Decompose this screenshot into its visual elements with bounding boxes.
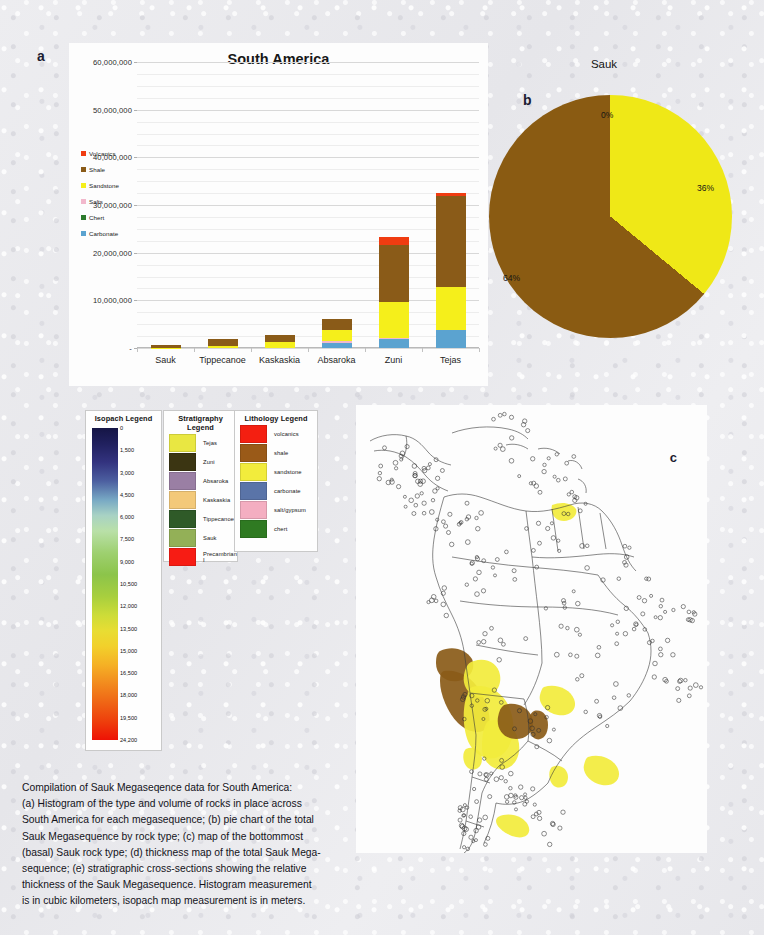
well-location-marker	[493, 574, 496, 577]
map-outline-path	[578, 479, 586, 493]
well-location-marker	[403, 495, 406, 498]
well-location-marker	[563, 477, 567, 481]
well-location-marker	[420, 492, 423, 495]
well-location-marker	[431, 594, 436, 599]
isopach-tick-label: 12,000	[120, 603, 137, 609]
map-panel: c	[356, 405, 707, 853]
map-outline-path	[598, 575, 648, 633]
well-location-marker	[405, 445, 409, 449]
map-outline-path	[496, 801, 524, 804]
well-location-marker	[477, 570, 482, 575]
bar-sauk	[151, 345, 181, 348]
map-outline-path	[526, 511, 532, 557]
well-location-marker	[672, 608, 675, 611]
x-tick-mark	[479, 348, 480, 352]
lithology-legend-title: Lithology Legend	[235, 411, 317, 425]
well-location-marker	[393, 460, 398, 465]
map-outline-path	[506, 444, 528, 449]
legend-item-volcanics: Volcanics	[81, 145, 119, 161]
well-location-marker	[484, 777, 488, 781]
legend-item-shale: Shale	[81, 161, 119, 177]
well-location-marker	[627, 694, 631, 698]
well-location-marker	[632, 627, 636, 631]
well-location-marker	[509, 458, 514, 463]
well-location-marker	[449, 542, 453, 546]
well-location-marker	[585, 544, 589, 548]
well-location-marker	[481, 639, 485, 643]
well-location-marker	[490, 772, 493, 775]
well-location-marker	[580, 674, 584, 678]
well-location-marker	[492, 417, 496, 421]
caption-line: South America for each megasequence; (b)…	[22, 812, 348, 828]
well-location-marker	[475, 839, 478, 842]
well-location-marker	[569, 653, 573, 657]
well-location-marker	[459, 520, 463, 524]
well-location-marker	[491, 566, 494, 569]
stratigraphy-item-precambrian-i: Precambrian I	[169, 548, 237, 566]
isopach-tick-label: 15,000	[120, 648, 137, 654]
well-location-marker	[428, 463, 431, 466]
bar-segment-shale	[208, 339, 238, 346]
map-country-outlines	[370, 427, 651, 853]
well-location-marker	[584, 710, 588, 714]
well-location-marker	[472, 787, 475, 790]
well-location-marker	[488, 795, 492, 799]
well-location-marker	[681, 604, 685, 608]
well-location-marker	[687, 610, 691, 614]
well-location-marker	[475, 800, 479, 804]
caption-line: is in cubic kilometers, isopach map meas…	[22, 893, 348, 909]
well-location-marker	[565, 461, 569, 465]
legend-item-label: Sandstone	[89, 182, 119, 189]
gridline	[137, 110, 479, 111]
isopach-color-ramp	[92, 428, 118, 740]
well-location-marker	[512, 569, 516, 573]
x-tick-mark	[251, 348, 252, 352]
caption-line: sequence; (e) stratigraphic cross-sectio…	[22, 861, 348, 877]
caption-line: (a) Histogram of the type and volume of …	[22, 796, 348, 812]
x-tick-label-absaroka: Absaroka	[317, 355, 355, 365]
well-location-marker	[484, 843, 488, 847]
gridline	[137, 74, 479, 75]
lithology-item-sandstone: sandstone	[240, 463, 317, 481]
isopach-tick-label: 18,000	[120, 692, 137, 698]
well-location-marker	[509, 771, 514, 776]
well-location-marker	[699, 686, 702, 689]
stratigraphy-item-label: Zuni	[203, 459, 215, 465]
pie-chart-title: Sauk	[494, 58, 714, 70]
map-outline-path	[482, 765, 500, 793]
well-location-marker	[551, 536, 555, 540]
well-location-marker	[520, 796, 524, 800]
histogram-panel: South America -10,000,00020,000,00030,00…	[69, 43, 488, 386]
legend-swatch-icon	[81, 215, 86, 220]
well-location-marker	[659, 604, 662, 607]
well-location-marker	[436, 487, 439, 490]
y-tick-label: -	[129, 344, 132, 353]
well-location-marker	[404, 505, 407, 508]
map-outline-path	[538, 609, 542, 663]
caption-line: Sauk Megasequence by rock type; (c) map …	[22, 829, 348, 845]
isopach-tick-label: 0	[120, 425, 123, 431]
well-location-marker	[650, 594, 653, 597]
map-outline-path	[460, 601, 618, 615]
map-shaded-regions	[436, 503, 619, 837]
lithology-legend: Lithology Legend volcanicsshalesandstone…	[234, 410, 318, 552]
well-location-marker	[504, 779, 507, 782]
gridline	[137, 62, 479, 63]
bar-segment-sandstone	[322, 330, 352, 341]
stratigraphy-item-kaskaskia: Kaskaskia	[169, 491, 237, 509]
gridline	[137, 312, 479, 313]
isopach-tick-label: 4,500	[120, 492, 134, 498]
legend-swatch-icon	[81, 199, 86, 204]
stratigraphy-item-sauk: Sauk	[169, 529, 237, 547]
map-shaded-region	[498, 704, 533, 739]
gridline	[137, 193, 479, 194]
gridline	[137, 217, 479, 218]
well-location-marker	[574, 627, 579, 632]
well-location-marker	[431, 498, 434, 501]
gridline	[137, 157, 479, 158]
pie-label-zero: 0%	[601, 110, 613, 120]
well-location-marker	[553, 475, 556, 478]
bar-segment-sandstone	[208, 346, 238, 348]
well-location-marker	[463, 804, 466, 807]
well-location-marker	[494, 447, 497, 450]
